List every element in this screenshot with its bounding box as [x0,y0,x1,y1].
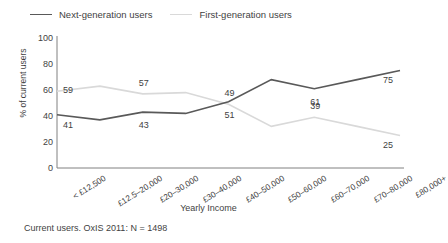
x-tick-label-2: £20–30,000 [157,173,199,205]
x-tick-label-4: £40–50,000 [243,173,285,205]
x-tick-label-3: £30–40,000 [200,173,242,205]
x-axis-title: Yearly Income [0,203,417,213]
x-tick-label-8: £80,000+ [413,173,448,200]
x-tick-label-0: < £12,500 [71,173,108,201]
chart-caption: Current users. OxIS 2011: N = 1498 [24,223,167,233]
x-tick-label-7: £70–80,000 [372,173,414,205]
x-tick-label-5: £50–60,000 [286,173,328,205]
x-tick-label-6: £60–70,000 [329,173,371,205]
